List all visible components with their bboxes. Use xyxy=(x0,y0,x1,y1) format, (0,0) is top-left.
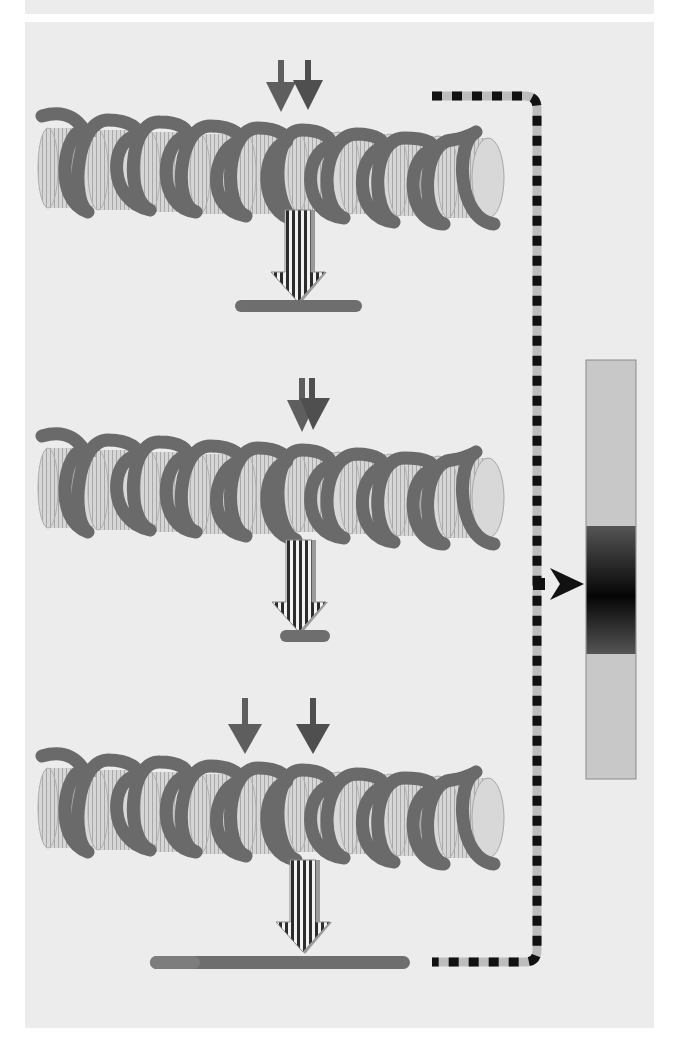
nucleosome-array-3 xyxy=(38,698,504,969)
cleavage-arrow-icon xyxy=(293,60,323,110)
gel-pointer-arrow-icon xyxy=(550,568,584,600)
digestion-product-bar xyxy=(280,630,330,642)
cleavage-arrow-icon xyxy=(266,60,296,112)
cleavage-arrow-icon xyxy=(228,698,262,754)
digestion-arrow-icon xyxy=(272,540,328,634)
digestion-arrow-icon xyxy=(276,860,332,954)
digestion-product-bar xyxy=(235,300,362,312)
digestion-arrow-icon xyxy=(271,210,327,304)
gel-band xyxy=(587,526,636,654)
nucleosome-diagram xyxy=(0,0,678,1045)
digestion-product-segment xyxy=(150,956,200,969)
cleavage-arrow-icon xyxy=(296,698,330,754)
gel-lane xyxy=(586,360,636,779)
nucleosome-array-2 xyxy=(38,378,504,642)
